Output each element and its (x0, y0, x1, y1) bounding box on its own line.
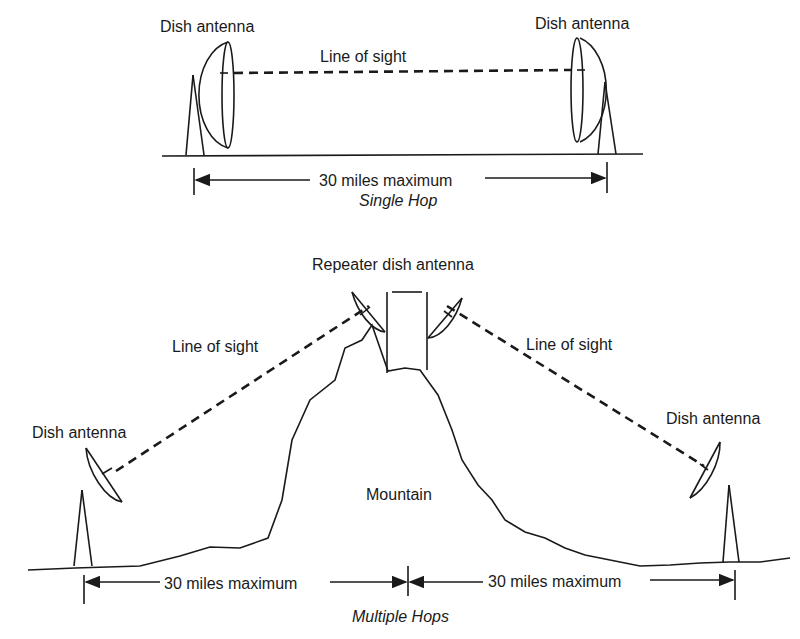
ground-line (162, 154, 643, 156)
right-distance-label: 30 miles maximum (488, 573, 621, 590)
dish-antenna-icon (186, 42, 234, 155)
right-line-of-sight-label: Line of sight (526, 336, 613, 353)
right-antenna-label: Dish antenna (666, 410, 760, 427)
mountain-label: Mountain (366, 486, 432, 503)
repeater-dish-antenna-icon (428, 298, 462, 338)
line-of-sight (234, 70, 572, 73)
repeater-dish-antenna-icon (352, 292, 385, 332)
mountain-outline (28, 325, 790, 570)
single-right-antenna-label: Dish antenna (535, 15, 629, 32)
dish-antenna-icon (74, 448, 122, 566)
multiple-hops-caption: Multiple Hops (352, 608, 449, 625)
microwave-link-diagram: Dish antenna Dish antenna Line of sight … (0, 0, 800, 639)
left-line-of-sight-label: Line of sight (172, 338, 259, 355)
left-distance-label: 30 miles maximum (164, 575, 297, 592)
right-line-of-sight (447, 306, 704, 466)
left-line-of-sight (116, 306, 369, 471)
single-left-antenna-label: Dish antenna (160, 18, 254, 35)
repeater-label: Repeater dish antenna (312, 256, 474, 273)
multiple-hops-section: Repeater dish antenna Line of sight Line… (28, 256, 790, 625)
single-hop-caption: Single Hop (359, 192, 437, 209)
single-distance-label: 30 miles maximum (319, 172, 452, 189)
dish-antenna-icon (571, 38, 616, 154)
dish-antenna-icon (690, 442, 739, 562)
single-hop-section: Dish antenna Dish antenna Line of sight … (160, 15, 643, 209)
single-line-of-sight-label: Line of sight (320, 48, 407, 65)
left-antenna-label: Dish antenna (32, 424, 126, 441)
